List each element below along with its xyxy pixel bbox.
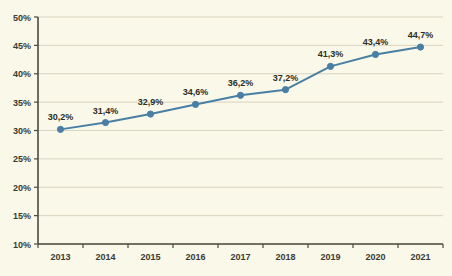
line-chart: 10%15%20%25%30%35%40%45%50% 201320142015… xyxy=(0,0,452,276)
data-point-label: 37,2% xyxy=(273,73,299,83)
x-tick-label: 2016 xyxy=(185,252,205,262)
x-tick-label: 2015 xyxy=(140,252,160,262)
data-point-marker xyxy=(237,92,243,98)
x-tick-label: 2013 xyxy=(50,252,70,262)
data-point-label: 32,9% xyxy=(138,97,164,107)
data-point-label: 41,3% xyxy=(318,49,344,59)
data-point-marker xyxy=(417,44,423,50)
y-tick-label: 25% xyxy=(13,154,31,164)
data-point-marker xyxy=(102,119,108,125)
y-tick-label: 50% xyxy=(13,13,31,23)
data-point-label: 31,4% xyxy=(93,106,119,116)
x-axis-labels: 201320142015201620172018201920202021 xyxy=(50,252,430,262)
x-tick-label: 2014 xyxy=(95,252,115,262)
y-tick-label: 45% xyxy=(13,41,31,51)
x-tick-label: 2018 xyxy=(275,252,295,262)
x-tick-label: 2019 xyxy=(320,252,340,262)
data-point-marker xyxy=(372,51,378,57)
y-tick-label: 15% xyxy=(13,211,31,221)
x-tick-label: 2021 xyxy=(410,252,430,262)
data-point-label: 30,2% xyxy=(48,112,74,122)
data-point-marker xyxy=(282,87,288,93)
y-tick-label: 40% xyxy=(13,69,31,79)
y-tick-label: 35% xyxy=(13,98,31,108)
x-tick-label: 2017 xyxy=(230,252,250,262)
y-axis-labels: 10%15%20%25%30%35%40%45%50% xyxy=(13,13,31,250)
data-point-label: 43,4% xyxy=(363,37,389,47)
data-point-label: 36,2% xyxy=(228,78,254,88)
chart-canvas: 10%15%20%25%30%35%40%45%50% 201320142015… xyxy=(0,0,452,276)
x-tick-label: 2020 xyxy=(365,252,385,262)
y-tick-label: 10% xyxy=(13,240,31,250)
data-point-label: 34,6% xyxy=(183,87,209,97)
data-point-marker xyxy=(147,111,153,117)
data-point-marker xyxy=(327,63,333,69)
data-point-label: 44,7% xyxy=(408,30,434,40)
y-tick-label: 20% xyxy=(13,183,31,193)
data-point-marker xyxy=(192,101,198,107)
data-point-marker xyxy=(57,126,63,132)
y-tick-label: 30% xyxy=(13,126,31,136)
